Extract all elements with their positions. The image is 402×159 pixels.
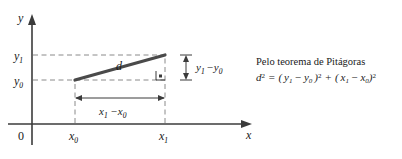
- tick-label-x0-sub: 0: [74, 136, 78, 145]
- vertical-measure-arrow-up: [183, 55, 189, 62]
- vertical-measure-arrow-down: [183, 73, 189, 80]
- tick-label-y0: y0: [13, 74, 23, 90]
- horizontal-measure-arrow-right: [158, 95, 165, 101]
- x-axis-arrowhead: [241, 120, 252, 128]
- formula-plus: +: [325, 71, 332, 83]
- tick-label-y1: y1: [13, 49, 23, 65]
- formula-y1-sub: 1: [289, 77, 293, 85]
- formula-open-paren-1: (: [278, 71, 282, 83]
- tick-label-x1: x1: [158, 129, 168, 145]
- y-axis-label: y: [17, 11, 24, 25]
- hmeasure-sub1: 1: [104, 111, 108, 120]
- tick-label-y0-sub: 0: [19, 81, 23, 90]
- vmeasure-sub2: 0: [219, 67, 223, 76]
- tick-label-x0: x0: [68, 129, 78, 145]
- hmeasure-minus: −: [111, 105, 117, 117]
- vmeasure-minus: −: [207, 61, 213, 73]
- y-axis-arrowhead: [28, 14, 36, 25]
- formula-minus-2: −: [351, 71, 358, 83]
- horizontal-measure-label: x1−x0: [98, 105, 127, 120]
- caption-block: Pelo teorema de Pitágoras d2=(y1−y0)2+(x…: [256, 55, 402, 86]
- horizontal-measure-arrow-left: [75, 95, 82, 101]
- right-angle-dot-icon: [159, 75, 162, 78]
- formula-close-paren-1-exponent: 2: [318, 72, 322, 80]
- caption-formula: d2=(y1−y0)2+(x1−x0)2: [256, 70, 402, 86]
- vmeasure-sub1: 1: [201, 67, 205, 76]
- x-axis-label: x: [245, 128, 252, 142]
- formula-minus-1: −: [295, 71, 302, 83]
- formula-d-exponent: 2: [262, 72, 266, 80]
- hypotenuse-label: d: [116, 59, 123, 73]
- formula-open-paren-2: (: [335, 71, 339, 83]
- tick-label-x1-sub: 1: [164, 136, 168, 145]
- origin-label: 0: [18, 129, 24, 143]
- figure-root: y x 0 y1 y0 x0 x1 d y1−y0 x1−x0 Pelo teo…: [0, 0, 402, 159]
- formula-y0-sub: 0: [309, 77, 313, 85]
- hmeasure-sub2: 0: [123, 111, 127, 120]
- formula-x1-sub: 1: [346, 77, 350, 85]
- caption-title: Pelo teorema de Pitágoras: [256, 55, 402, 69]
- tick-label-y1-sub: 1: [19, 56, 23, 65]
- vertical-measure-label: y1−y0: [195, 61, 223, 76]
- formula-close-paren-2-exponent: 2: [373, 72, 377, 80]
- formula-equals: =: [268, 71, 275, 83]
